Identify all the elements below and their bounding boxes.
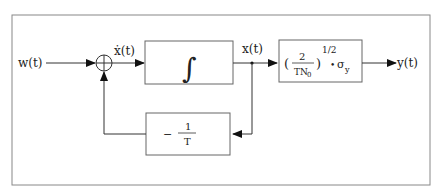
input-label: w(t) (18, 56, 42, 70)
feedback-line-right (233, 63, 252, 134)
svg-text:): ) (316, 56, 321, 71)
svg-text:0: 0 (307, 71, 311, 79)
svg-text:1: 1 (185, 121, 191, 132)
feedback-block (146, 113, 230, 155)
summing-junction (96, 55, 112, 71)
integral-symbol: ∫ (182, 52, 197, 85)
svg-text:y: y (344, 65, 350, 74)
svg-text:2: 2 (299, 51, 305, 62)
block-diagram: w(t) ẋ(t) ∫ x(t) ( 2 TN 0 ) 1/2 • σ y y(… (0, 0, 439, 195)
svg-text:T: T (184, 136, 191, 147)
svg-text:TN: TN (294, 67, 308, 77)
svg-text:−: − (163, 128, 172, 141)
output-label: y(t) (396, 56, 418, 70)
svg-text:σ: σ (337, 58, 345, 71)
state-label: x(t) (242, 42, 263, 56)
feedback-line-left (104, 72, 146, 134)
derivative-label: ẋ(t) (114, 44, 135, 58)
svg-text:(: ( (284, 56, 289, 71)
svg-text:•: • (330, 60, 335, 70)
svg-text:1/2: 1/2 (322, 45, 336, 55)
